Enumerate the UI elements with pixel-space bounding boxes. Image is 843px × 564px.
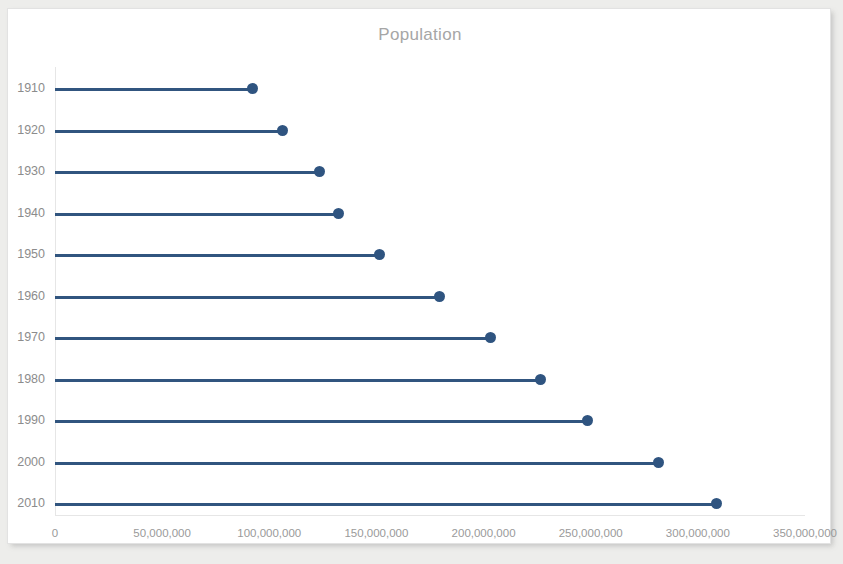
- stem-row[interactable]: 1950: [55, 246, 805, 264]
- y-axis-category-label: 1960: [17, 289, 45, 303]
- stem-line: [55, 337, 490, 340]
- plot-area: 1910192019301940195019601970198019902000…: [55, 67, 805, 515]
- stem-line: [55, 213, 338, 216]
- stem-marker-dot[interactable]: [535, 374, 546, 385]
- x-axis-tick-label: 250,000,000: [559, 527, 623, 539]
- chart-title: Population: [8, 25, 832, 45]
- stem-row[interactable]: 2000: [55, 454, 805, 472]
- y-axis-category-label: 1990: [17, 413, 45, 427]
- screenshot-canvas: Population 19101920193019401950196019701…: [0, 0, 843, 564]
- stem-line: [55, 254, 379, 257]
- x-axis-line: [55, 515, 805, 516]
- stem-marker-dot[interactable]: [277, 125, 288, 136]
- stem-line: [55, 88, 253, 91]
- stem-line: [55, 130, 282, 133]
- stem-row[interactable]: 1940: [55, 205, 805, 223]
- y-axis-category-label: 1950: [17, 247, 45, 261]
- y-axis-category-label: 2010: [17, 496, 45, 510]
- stem-marker-dot[interactable]: [374, 249, 385, 260]
- stem-row[interactable]: 1980: [55, 371, 805, 389]
- y-axis-category-label: 1940: [17, 206, 45, 220]
- stem-row[interactable]: 1990: [55, 412, 805, 430]
- y-axis-category-label: 1930: [17, 164, 45, 178]
- stem-row[interactable]: 1960: [55, 288, 805, 306]
- x-axis-tick-label: 50,000,000: [133, 527, 191, 539]
- x-axis-tick-label: 300,000,000: [666, 527, 730, 539]
- x-axis-tick-labels: 050,000,000100,000,000150,000,000200,000…: [55, 527, 805, 547]
- stem-line: [55, 503, 717, 506]
- stem-row[interactable]: 1930: [55, 163, 805, 181]
- stem-marker-dot[interactable]: [653, 457, 664, 468]
- stem-row[interactable]: 1920: [55, 122, 805, 140]
- stem-row[interactable]: 2010: [55, 495, 805, 513]
- stem-marker-dot[interactable]: [314, 166, 325, 177]
- stem-line: [55, 379, 540, 382]
- stem-line: [55, 462, 658, 465]
- y-axis-category-label: 1920: [17, 123, 45, 137]
- stem-line: [55, 296, 439, 299]
- x-axis-tick-label: 100,000,000: [237, 527, 301, 539]
- y-axis-category-label: 1980: [17, 372, 45, 386]
- y-axis-category-label: 1910: [17, 81, 45, 95]
- x-axis-tick-label: 350,000,000: [773, 527, 837, 539]
- stem-marker-dot[interactable]: [485, 332, 496, 343]
- stem-marker-dot[interactable]: [434, 291, 445, 302]
- stem-line: [55, 420, 588, 423]
- stem-marker-dot[interactable]: [333, 208, 344, 219]
- y-axis-category-label: 1970: [17, 330, 45, 344]
- x-axis-tick-label: 0: [52, 527, 58, 539]
- stem-marker-dot[interactable]: [247, 83, 258, 94]
- stem-marker-dot[interactable]: [711, 498, 722, 509]
- stem-line: [55, 171, 319, 174]
- x-axis-tick-label: 150,000,000: [344, 527, 408, 539]
- stem-marker-dot[interactable]: [582, 415, 593, 426]
- stem-row[interactable]: 1910: [55, 80, 805, 98]
- y-axis-category-label: 2000: [17, 455, 45, 469]
- x-axis-tick-label: 200,000,000: [452, 527, 516, 539]
- stem-row[interactable]: 1970: [55, 329, 805, 347]
- chart-card[interactable]: Population 19101920193019401950196019701…: [7, 8, 831, 544]
